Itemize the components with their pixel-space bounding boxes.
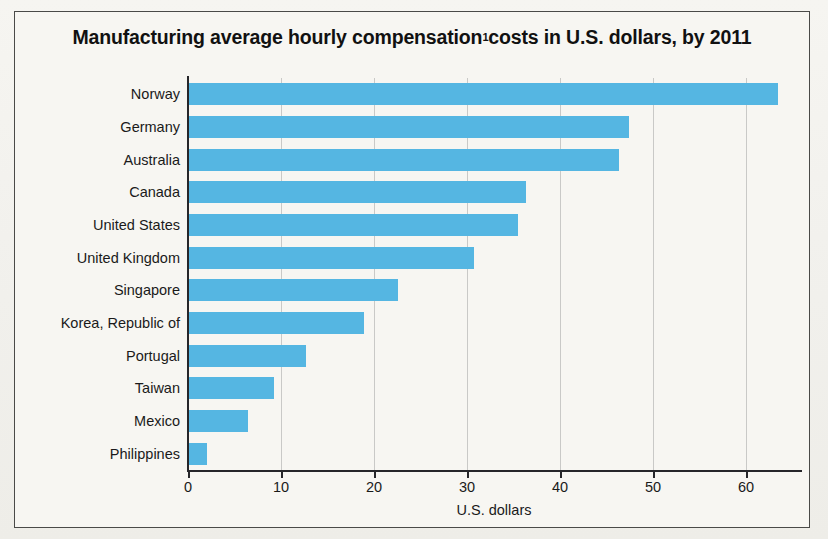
y-axis-line [187,76,189,472]
bar[interactable] [188,181,526,203]
bar[interactable] [188,345,306,367]
bar[interactable] [188,116,629,138]
category-label: United States [30,218,180,232]
x-tick-label: 50 [633,479,673,495]
bar[interactable] [188,149,619,171]
x-tick-10 [281,470,283,478]
x-tick-label: 60 [726,479,766,495]
category-label: United Kingdom [30,251,180,265]
x-tick-50 [653,470,655,478]
gridline-50 [653,78,654,470]
x-tick-label: 10 [261,479,301,495]
bar[interactable] [188,247,474,269]
x-axis-title: U.S. dollars [188,502,800,518]
category-label: Portugal [30,349,180,363]
category-label: Philippines [30,447,180,461]
category-label: Mexico [30,414,180,428]
bar[interactable] [188,377,274,399]
x-tick-label: 20 [354,479,394,495]
bar-chart: NorwayGermanyAustraliaCanadaUnited State… [0,0,828,539]
category-label: Norway [30,87,180,101]
x-tick-60 [746,470,748,478]
x-tick-40 [560,470,562,478]
category-label: Germany [30,120,180,134]
bar[interactable] [188,214,518,236]
gridline-60 [746,78,747,470]
category-label: Korea, Republic of [30,316,180,330]
bar[interactable] [188,312,364,334]
plot-area [188,78,800,470]
x-axis-line [187,470,802,472]
chart-page: Manufacturing average hourly compensatio… [0,0,828,539]
category-label: Australia [30,153,180,167]
x-tick-label: 30 [447,479,487,495]
x-tick-label: 40 [540,479,580,495]
x-tick-label: 0 [168,479,208,495]
bar[interactable] [188,83,778,105]
bar[interactable] [188,443,207,465]
bar[interactable] [188,279,398,301]
x-tick-20 [374,470,376,478]
category-label: Canada [30,185,180,199]
x-tick-0 [188,470,190,478]
category-axis-labels: NorwayGermanyAustraliaCanadaUnited State… [28,78,180,470]
bar[interactable] [188,410,248,432]
category-label: Taiwan [30,381,180,395]
x-tick-30 [467,470,469,478]
category-label: Singapore [30,283,180,297]
